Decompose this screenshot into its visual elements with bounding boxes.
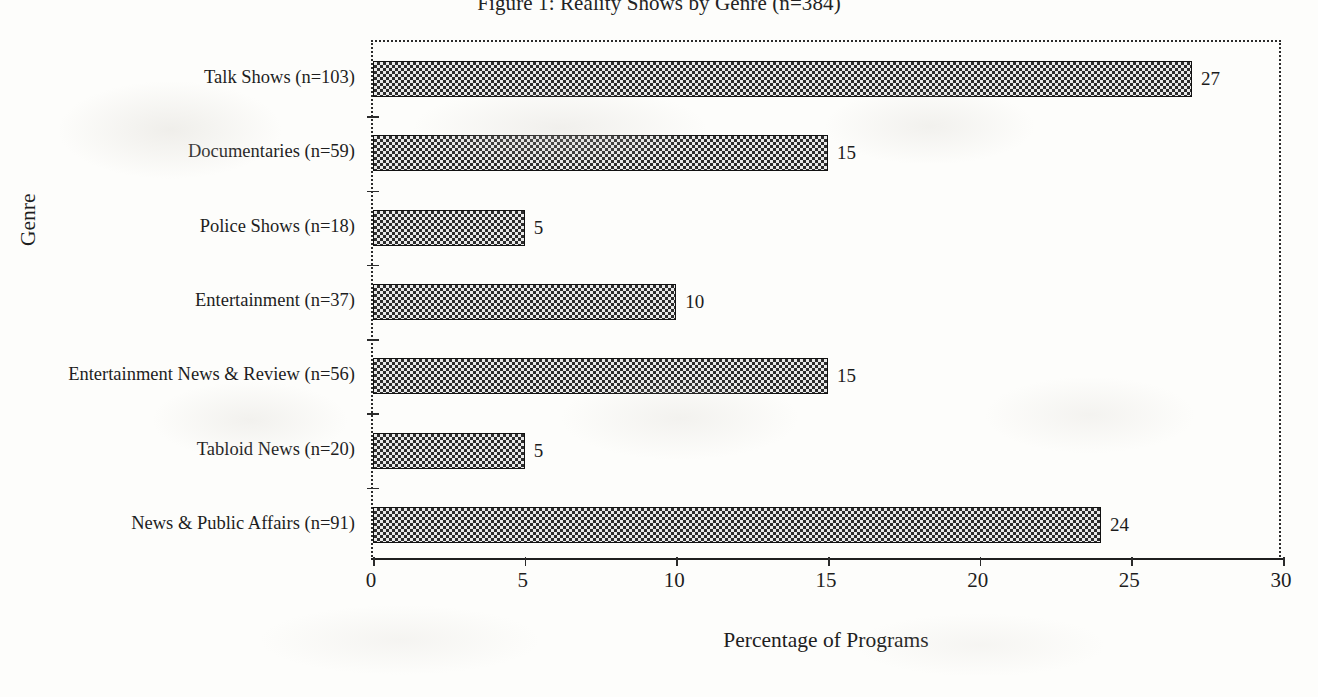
- category-label-column: Talk Shows (n=103)Documentaries (n=59)Po…: [0, 40, 363, 560]
- category-label: Documentaries (n=59): [188, 141, 355, 162]
- bar-row: 5: [373, 191, 1279, 265]
- bar-value-label: 27: [1201, 68, 1220, 90]
- chart-plot-area: 271551015524: [371, 40, 1281, 560]
- x-axis-tick-label: 0: [366, 568, 377, 593]
- bar: [373, 210, 525, 246]
- bar: [373, 61, 1192, 97]
- bar-value-label: 24: [1110, 514, 1129, 536]
- bar: [373, 284, 676, 320]
- x-axis-tick-label: 10: [664, 568, 685, 593]
- bar-value-label: 15: [837, 142, 856, 164]
- x-axis-title: Percentage of Programs: [371, 628, 1281, 653]
- category-label: Talk Shows (n=103): [204, 67, 355, 88]
- bar-row: 24: [373, 488, 1279, 562]
- x-axis-tick-label: 15: [816, 568, 837, 593]
- bar-value-label: 5: [534, 217, 544, 239]
- y-axis-title: Genre: [16, 193, 41, 246]
- x-axis-tick: [676, 557, 678, 566]
- x-axis-tick-label: 5: [517, 568, 528, 593]
- bar-row: 10: [373, 265, 1279, 339]
- figure-title: Figure 1: Reality Shows by Genre (n=384): [0, 0, 1318, 16]
- bar-row: 15: [373, 339, 1279, 413]
- bar-row: 15: [373, 116, 1279, 190]
- category-label: Police Shows (n=18): [200, 215, 355, 236]
- x-axis-tick: [525, 557, 527, 566]
- x-axis-tick: [828, 557, 830, 566]
- bar-row: 5: [373, 413, 1279, 487]
- bar: [373, 507, 1101, 543]
- bar-value-label: 15: [837, 365, 856, 387]
- bar-value-label: 10: [685, 291, 704, 313]
- x-axis-tick: [1283, 557, 1285, 566]
- category-label: News & Public Affairs (n=91): [131, 512, 355, 533]
- x-axis-tick-label: 25: [1119, 568, 1140, 593]
- x-axis-tick-label: 30: [1271, 568, 1292, 593]
- bar: [373, 433, 525, 469]
- bar-row: 27: [373, 42, 1279, 116]
- x-axis-tick-label: 20: [967, 568, 988, 593]
- category-label: Entertainment News & Review (n=56): [68, 364, 355, 385]
- x-axis-tick: [373, 557, 375, 566]
- x-axis-tick: [980, 557, 982, 566]
- bar: [373, 358, 828, 394]
- x-axis-tick: [1131, 557, 1133, 566]
- bar: [373, 135, 828, 171]
- category-label: Tabloid News (n=20): [197, 438, 355, 459]
- bar-value-label: 5: [534, 440, 544, 462]
- category-label: Entertainment (n=37): [195, 290, 355, 311]
